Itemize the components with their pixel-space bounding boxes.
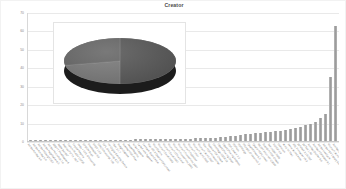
bar: [64, 140, 66, 141]
bar: [59, 140, 61, 141]
bar: [329, 77, 331, 141]
y-tick-label: 30: [20, 85, 24, 89]
bar: [219, 137, 221, 141]
bar: [69, 140, 71, 141]
bar: [224, 137, 226, 141]
bar: [114, 140, 116, 141]
chart-title: Creator: [1, 2, 346, 9]
bar: [184, 139, 186, 141]
pie-top-face: [64, 38, 176, 84]
bar: [154, 139, 156, 141]
bar: [74, 140, 76, 141]
y-tick-label: 40: [20, 66, 24, 70]
y-tick-label: 70: [20, 11, 24, 15]
bar: [129, 140, 131, 141]
bar: [179, 139, 181, 141]
bar: [234, 136, 236, 141]
bar: [34, 140, 36, 141]
bar: [304, 125, 306, 141]
bar: [294, 128, 296, 141]
bar: [84, 140, 86, 141]
bar: [199, 138, 201, 141]
y-axis-tick-labels: 010203040506070: [1, 13, 27, 142]
bar: [279, 131, 281, 141]
bar: [44, 140, 46, 141]
y-tick-label: 10: [20, 122, 24, 126]
bar: [239, 135, 241, 141]
bar: [309, 124, 311, 141]
bar: [134, 139, 136, 141]
bar: [209, 138, 211, 141]
bar: [139, 139, 141, 141]
bar: [254, 133, 256, 141]
bar: [29, 140, 31, 141]
bar: [124, 140, 126, 141]
bar: [289, 129, 291, 141]
bar: [49, 140, 51, 141]
bar: [194, 138, 196, 141]
bar: [99, 140, 101, 141]
pie-slices-svg: [64, 38, 176, 84]
bar: [94, 140, 96, 141]
bar: [334, 26, 336, 141]
pie-slice: [64, 38, 120, 65]
bar: [284, 130, 286, 141]
bar: [109, 140, 111, 141]
pie-chart-inset: [53, 22, 186, 104]
bar: [314, 122, 316, 141]
bar: [269, 132, 271, 142]
x-axis-tick-labels: Adobe Acrobat 4.0Adobe Acrobat 5.0Adobe …: [27, 143, 339, 189]
pie-stage: [60, 32, 180, 94]
bar: [204, 138, 206, 141]
bar: [79, 140, 81, 141]
bar: [119, 140, 121, 141]
bar: [149, 139, 151, 141]
y-tick-label: 20: [20, 103, 24, 107]
y-tick-label: 50: [20, 48, 24, 52]
bar: [299, 127, 301, 141]
bar: [54, 140, 56, 141]
bar: [39, 140, 41, 141]
bar: [259, 133, 261, 141]
bar: [144, 139, 146, 141]
bar: [89, 140, 91, 141]
chart-container: Creator 010203040506070 Adobe Acrobat 4.…: [0, 0, 346, 189]
y-tick-label: 60: [20, 29, 24, 33]
bar: [189, 139, 191, 141]
bar: [169, 139, 171, 141]
bar: [159, 139, 161, 141]
bar: [244, 134, 246, 141]
bar: [104, 140, 106, 141]
bar: [319, 118, 321, 141]
bar: [164, 139, 166, 141]
y-tick-label: 0: [22, 140, 24, 144]
bar: [174, 139, 176, 141]
bar: [324, 114, 326, 141]
bar: [274, 131, 276, 141]
bar: [229, 136, 231, 141]
bar: [249, 134, 251, 141]
bar: [264, 132, 266, 141]
x-axis-line: [27, 141, 339, 142]
bar: [214, 138, 216, 141]
